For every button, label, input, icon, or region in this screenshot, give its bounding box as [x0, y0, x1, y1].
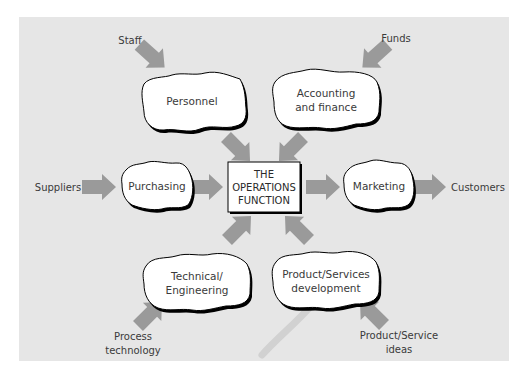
funds-label: Funds: [381, 33, 410, 44]
accounting-label-line2: and finance: [295, 101, 357, 113]
suppliers-label: Suppliers: [35, 182, 81, 193]
product-dev-label-line1: Product/Services: [282, 268, 370, 280]
customers-label: Customers: [451, 182, 505, 193]
product-dev-label-line2: development: [291, 282, 360, 294]
center-label-line2: OPERATIONS: [232, 182, 296, 193]
personnel-label: Personnel: [166, 95, 217, 107]
technical-label-line1: Technical/: [170, 270, 223, 282]
operations-function-diagram: THE OPERATIONS FUNCTION Personnel Accoun…: [0, 0, 522, 384]
product-ideas-label-line2: ideas: [386, 344, 413, 355]
accounting-label-line1: Accounting: [297, 87, 356, 99]
center-label-line3: FUNCTION: [238, 195, 290, 206]
technical-label-line2: Engineering: [166, 284, 229, 296]
center-label-line1: THE: [253, 169, 274, 180]
staff-label: Staff: [118, 35, 142, 46]
process-technology-label-line1: Process: [114, 331, 152, 342]
product-ideas-label-line1: Product/Service: [360, 330, 438, 341]
purchasing-label: Purchasing: [128, 180, 185, 192]
marketing-label: Marketing: [353, 180, 405, 192]
process-technology-label-line2: technology: [105, 345, 161, 356]
